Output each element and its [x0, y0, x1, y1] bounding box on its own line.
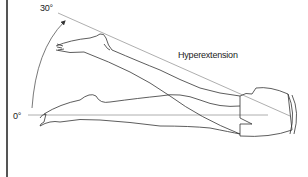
hip-hyperextension-diagram: 30° 0° Hyperextension: [0, 0, 308, 177]
angle-label-30: 30°: [40, 3, 53, 13]
movement-label: Hyperextension: [178, 50, 238, 60]
reference-line-30: [58, 13, 290, 116]
shorts: [240, 88, 297, 137]
rotation-arc-arrow: [32, 22, 64, 108]
leg-illustration: [0, 0, 308, 177]
neutral-leg: [40, 95, 240, 134]
angle-label-0: 0°: [13, 111, 21, 121]
